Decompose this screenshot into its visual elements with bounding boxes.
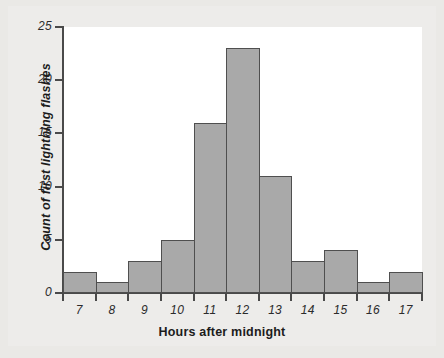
x-axis-tick	[62, 294, 64, 301]
x-axis-tick	[388, 294, 390, 301]
histogram-bar	[357, 282, 391, 293]
x-axis-tick	[290, 294, 292, 301]
x-axis-tick	[356, 294, 358, 301]
y-axis-tick	[55, 26, 63, 28]
y-axis-tick	[55, 239, 63, 241]
y-axis-title: Count of first lightning flashes	[39, 7, 53, 307]
histogram-bar	[259, 176, 293, 293]
x-axis-tick	[160, 294, 162, 301]
x-axis-tick	[421, 294, 423, 301]
histogram-bar	[226, 48, 260, 293]
histogram-bar	[291, 261, 325, 293]
histogram-bar	[128, 261, 162, 293]
histogram-bar	[161, 240, 195, 293]
histogram-bar	[389, 272, 423, 293]
histogram-bar	[194, 123, 228, 293]
x-axis-tick	[95, 294, 97, 301]
x-axis-tick	[258, 294, 260, 301]
x-axis-tick	[127, 294, 129, 301]
y-axis-tick	[55, 186, 63, 188]
x-axis-title: Hours after midnight	[0, 325, 444, 339]
y-axis-tick	[55, 132, 63, 134]
chart-page: 0510152025 7891011121314151617 Hours aft…	[0, 0, 444, 358]
x-axis-tick	[225, 294, 227, 301]
y-axis-line	[62, 26, 64, 294]
x-axis-tick	[193, 294, 195, 301]
x-axis-tick	[323, 294, 325, 301]
histogram-bar	[63, 272, 97, 293]
x-axis-tick-label: 17	[386, 303, 426, 317]
histogram-bar	[324, 250, 358, 293]
histogram-bar	[96, 282, 130, 293]
y-axis-tick	[55, 79, 63, 81]
